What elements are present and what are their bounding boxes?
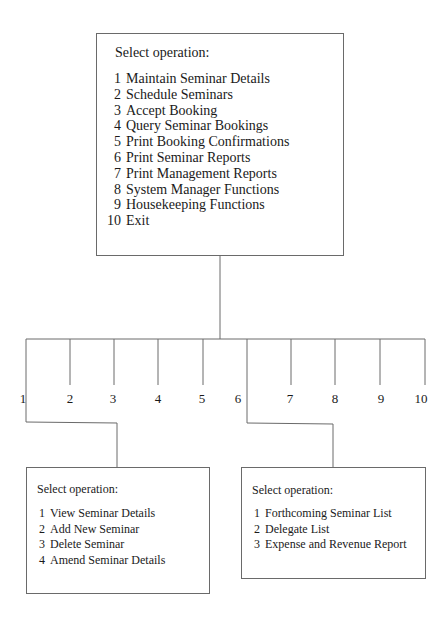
main-menu-item[interactable]: 1Maintain Seminar Details — [107, 71, 289, 87]
branch-label-2: 2 — [67, 391, 74, 407]
branch-label-9: 9 — [378, 391, 385, 407]
branch-label-1: 1 — [20, 391, 27, 407]
main-menu-item[interactable]: 7Print Management Reports — [107, 166, 289, 182]
branch-label-3: 3 — [110, 391, 117, 407]
item-number: 1 — [252, 506, 260, 522]
item-label: Query Seminar Bookings — [126, 118, 268, 134]
item-label: Print Management Reports — [126, 166, 277, 182]
branch-label-5: 5 — [199, 391, 206, 407]
submenu-1-heading: Select operation: — [37, 482, 118, 497]
main-menu-list: 1Maintain Seminar Details 2Schedule Semi… — [107, 71, 289, 229]
submenu-1-item[interactable]: 2Add New Seminar — [37, 522, 165, 538]
item-number: 2 — [37, 522, 45, 538]
item-label: Expense and Revenue Report — [265, 537, 407, 553]
submenu-1-item[interactable]: 4Amend Seminar Details — [37, 553, 165, 569]
main-menu-box: Select operation: 1Maintain Seminar Deta… — [96, 33, 344, 256]
item-number: 8 — [107, 182, 121, 198]
submenu-6-connector — [247, 423, 333, 467]
item-number: 3 — [252, 537, 260, 553]
main-menu-item[interactable]: 3Accept Booking — [107, 103, 289, 119]
branch-label-10: 10 — [415, 391, 428, 407]
branch-label-8: 8 — [332, 391, 339, 407]
item-label: View Seminar Details — [50, 506, 155, 522]
submenu-1-item[interactable]: 1View Seminar Details — [37, 506, 165, 522]
branch-label-4: 4 — [155, 391, 162, 407]
main-menu-item[interactable]: 2Schedule Seminars — [107, 87, 289, 103]
branch-label-7: 7 — [287, 391, 294, 407]
submenu-1-box: Select operation: 1View Seminar Details … — [26, 467, 210, 594]
item-label: Accept Booking — [126, 103, 217, 119]
item-number: 2 — [107, 87, 121, 103]
item-number: 3 — [107, 103, 121, 119]
submenu-1-connector — [26, 422, 117, 467]
main-menu-item[interactable]: 6Print Seminar Reports — [107, 150, 289, 166]
item-number: 1 — [107, 71, 121, 87]
item-number: 10 — [107, 213, 121, 229]
submenu-1-list: 1View Seminar Details 2Add New Seminar 3… — [37, 506, 165, 568]
item-number: 1 — [37, 506, 45, 522]
item-label: Housekeeping Functions — [126, 197, 265, 213]
main-menu-item[interactable]: 9Housekeeping Functions — [107, 197, 289, 213]
item-label: System Manager Functions — [126, 182, 279, 198]
item-number: 4 — [37, 553, 45, 569]
item-number: 9 — [107, 197, 121, 213]
item-number: 5 — [107, 134, 121, 150]
item-label: Exit — [126, 213, 149, 229]
item-label: Amend Seminar Details — [50, 553, 165, 569]
main-menu-item[interactable]: 10Exit — [107, 213, 289, 229]
main-menu-item[interactable]: 5Print Booking Confirmations — [107, 134, 289, 150]
item-label: Forthcoming Seminar List — [265, 506, 392, 522]
branch-label-6: 6 — [235, 391, 242, 407]
item-number: 3 — [37, 537, 45, 553]
item-label: Delete Seminar — [50, 537, 124, 553]
item-number: 6 — [107, 150, 121, 166]
item-number: 4 — [107, 118, 121, 134]
submenu-1-item[interactable]: 3Delete Seminar — [37, 537, 165, 553]
item-label: Print Seminar Reports — [126, 150, 250, 166]
main-menu-item[interactable]: 4Query Seminar Bookings — [107, 118, 289, 134]
item-label: Schedule Seminars — [126, 87, 233, 103]
submenu-6-item[interactable]: 3Expense and Revenue Report — [252, 537, 407, 553]
submenu-6-item[interactable]: 2Delegate List — [252, 522, 407, 538]
item-label: Delegate List — [265, 522, 329, 538]
item-label: Print Booking Confirmations — [126, 134, 289, 150]
submenu-6-box: Select operation: 1Forthcoming Seminar L… — [241, 467, 426, 579]
submenu-6-item[interactable]: 1Forthcoming Seminar List — [252, 506, 407, 522]
item-number: 2 — [252, 522, 260, 538]
submenu-6-heading: Select operation: — [252, 483, 333, 498]
main-menu-heading: Select operation: — [115, 45, 209, 61]
item-label: Add New Seminar — [50, 522, 139, 538]
item-number: 7 — [107, 166, 121, 182]
item-label: Maintain Seminar Details — [126, 71, 270, 87]
main-menu-item[interactable]: 8System Manager Functions — [107, 182, 289, 198]
submenu-6-list: 1Forthcoming Seminar List 2Delegate List… — [252, 506, 407, 553]
